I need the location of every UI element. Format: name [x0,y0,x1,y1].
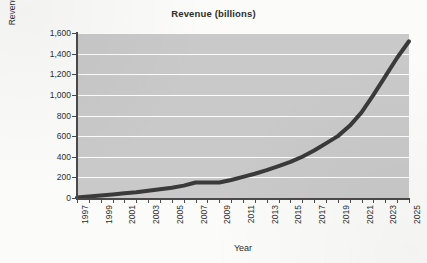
x-axis-tick-mark [243,199,244,203]
y-axis-tick-label: 1,000 [24,90,71,100]
x-axis-tick-mark [255,199,256,203]
x-axis-tick-mark [362,199,363,203]
x-axis-tick-label: 2025 [413,205,422,224]
y-axis-tick-label: 1,200 [24,69,71,79]
x-axis-tick-label: 2009 [223,205,232,224]
x-axis-tick-label: 2005 [176,205,185,224]
x-axis-tick-mark [136,199,137,203]
x-axis-tick-label: 2007 [200,205,209,224]
x-axis-tick-mark [89,199,90,203]
x-axis-tick-label: 2023 [389,205,398,224]
y-axis-tick-mark [72,54,77,55]
x-axis-tick-mark [184,199,185,203]
y-axis-tick-label: 800 [24,111,71,121]
x-axis-tick-label: 2011 [247,205,256,223]
x-axis-tick-mark [397,199,398,203]
x-axis-tick-label: 1997 [81,205,90,224]
chart-title: Revenue (billions) [0,8,427,19]
x-axis-tick-label: 2017 [318,205,327,224]
data-series-revenue [77,33,409,198]
x-axis-tick-mark [338,199,339,203]
x-axis-tick-mark [124,199,125,203]
x-axis-tick-mark [207,199,208,203]
y-axis-tick-labels: 1,6001,4001,2001,0008006004002000 [24,33,71,198]
x-axis-tick-label: 2013 [271,205,280,224]
y-axis-tick-label: 400 [24,152,71,162]
y-axis-tick-label: 0 [24,193,71,203]
x-axis-tick-mark [219,199,220,203]
x-axis-tick-mark [148,199,149,203]
x-axis-tick-label: 2015 [294,205,303,224]
x-axis-tick-mark [302,199,303,203]
y-axis-tick-mark [72,95,77,96]
x-axis-tick-mark [314,199,315,203]
x-axis-tick-mark [290,199,291,203]
chart-figure: Revenue (billions) Revenues (Billions US… [0,0,427,263]
x-axis-tick-mark [77,199,78,203]
x-axis-tick-mark [113,199,114,203]
x-axis-tick-label: 2021 [366,205,375,224]
x-axis-tick-mark [160,199,161,203]
x-axis-tick-mark [326,199,327,203]
y-axis-tick-mark [72,33,77,34]
y-axis-tick-mark [72,74,77,75]
x-axis-tick-mark [267,199,268,203]
y-axis-tick-mark [72,136,77,137]
x-axis-tick-label: 2003 [152,205,161,224]
x-axis-tick-mark [231,199,232,203]
y-axis-tick-mark [72,157,77,158]
x-axis-tick-mark [373,199,374,203]
y-axis-tick-mark [72,177,77,178]
x-axis-tick-label: 1999 [105,205,114,224]
x-axis-tick-mark [350,199,351,203]
y-axis-tick-label: 1,600 [24,28,71,38]
x-axis-tick-label: 2019 [342,205,351,224]
x-axis-tick-mark [409,199,410,203]
y-axis-tick-label: 1,400 [24,49,71,59]
x-axis-tick-mark [172,199,173,203]
x-axis-tick-mark [196,199,197,203]
y-axis-tick-label: 200 [24,172,71,182]
y-axis-title: Revenues (Billions USD) [5,0,19,61]
y-axis-tick-label: 600 [24,131,71,141]
y-axis-tick-mark [72,116,77,117]
x-axis-tick-mark [101,199,102,203]
x-axis-tick-label: 2001 [128,205,137,224]
x-axis-tick-mark [279,199,280,203]
x-axis-tick-mark [385,199,386,203]
x-axis-title: Year [77,243,409,253]
